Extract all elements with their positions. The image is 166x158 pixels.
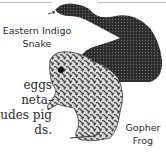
body-text-fragment: eggs neta- udes pig ds. [0,78,52,138]
body-text-line: neta- [0,93,52,108]
body-text-line: udes pig [0,108,52,123]
frog-caption-line-1: Gopher [121,121,165,134]
snake-caption: Eastern Indigo Snake [2,24,72,50]
frog-caption-line-2: Frog [121,134,165,147]
frog-caption: Gopher Frog [121,121,165,147]
body-text-line: eggs [0,78,52,93]
body-text-line: ds. [0,123,52,138]
snake-caption-line-2: Snake [2,37,72,50]
snake-caption-line-1: Eastern Indigo [2,24,72,37]
